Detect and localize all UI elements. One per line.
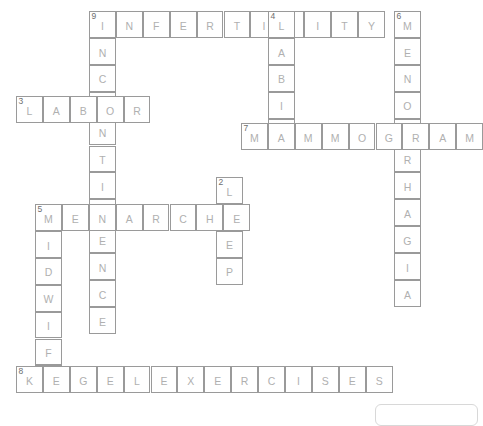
crossword-cell[interactable]: L [124, 366, 151, 393]
crossword-cell[interactable]: N [89, 253, 116, 280]
crossword-cell[interactable]: B [268, 65, 295, 92]
cell-letter: H [395, 173, 420, 198]
crossword-cell[interactable]: E [223, 204, 250, 231]
crossword-cell[interactable]: N [394, 65, 421, 92]
cell-letter: I [90, 173, 115, 198]
crossword-cell[interactable]: F [35, 339, 62, 366]
crossword-cell[interactable]: T [89, 146, 116, 173]
cell-letter: A [44, 97, 69, 122]
crossword-cell[interactable]: M [322, 123, 349, 150]
crossword-cell[interactable]: A [268, 123, 295, 150]
clue-number-3: 3 [19, 97, 24, 106]
cell-letter: X [178, 367, 203, 392]
crossword-cell[interactable]: A [429, 123, 456, 150]
crossword-cell[interactable]: A [394, 280, 421, 307]
crossword-cell[interactable]: S [312, 366, 339, 393]
crossword-cell[interactable]: G [376, 123, 403, 150]
crossword-cell[interactable]: O [394, 92, 421, 119]
crossword-cell[interactable]: S [366, 366, 393, 393]
crossword-cell[interactable]: O [349, 123, 376, 150]
crossword-cell[interactable]: X [177, 366, 204, 393]
cell-letter: E [63, 205, 88, 230]
cell-letter: I [269, 93, 294, 118]
cell-letter: R [395, 147, 420, 172]
crossword-cell[interactable]: E [43, 366, 70, 393]
cell-letter: C [171, 205, 196, 230]
crossword-cell[interactable]: L4 [268, 11, 295, 38]
cell-letter: E [44, 367, 69, 392]
crossword-cell[interactable]: A [268, 38, 295, 65]
clue-number-9: 9 [92, 12, 97, 21]
crossword-cell[interactable]: I9 [89, 11, 116, 38]
crossword-cell[interactable]: G [70, 366, 97, 393]
crossword-cell[interactable]: E [339, 366, 366, 393]
crossword-cell[interactable]: R [124, 96, 151, 123]
crossword-cell[interactable]: N [89, 204, 116, 231]
cell-letter: E [152, 367, 177, 392]
crossword-cell[interactable]: C [258, 366, 285, 393]
crossword-cell[interactable]: E [97, 366, 124, 393]
crossword-cell[interactable]: M [295, 123, 322, 150]
cell-letter: A [117, 205, 142, 230]
crossword-cell[interactable]: Y [358, 11, 385, 38]
cell-letter: B [71, 97, 96, 122]
crossword-cell[interactable]: R [143, 204, 170, 231]
cell-letter: N [90, 254, 115, 279]
crossword-cell[interactable]: I [285, 366, 312, 393]
crossword-cell[interactable]: M6 [394, 11, 421, 38]
crossword-cell[interactable]: T [224, 11, 251, 38]
cell-letter: C [90, 281, 115, 306]
crossword-cell[interactable]: K8 [16, 366, 43, 393]
crossword-cell[interactable]: E [394, 38, 421, 65]
cell-letter: D [36, 259, 61, 284]
cell-letter: I [305, 12, 330, 37]
crossword-cell[interactable]: M5 [35, 204, 62, 231]
crossword-cell[interactable]: M [456, 123, 483, 150]
crossword-cell[interactable]: R [402, 123, 429, 150]
crossword-cell[interactable]: I [394, 253, 421, 280]
crossword-cell[interactable]: N [116, 11, 143, 38]
crossword-cell[interactable]: A [394, 199, 421, 226]
cell-letter: E [224, 205, 249, 230]
cell-letter: E [205, 367, 230, 392]
crossword-cell[interactable]: M7 [241, 123, 268, 150]
crossword-cell[interactable]: I [35, 312, 62, 339]
crossword-cell[interactable]: H [394, 172, 421, 199]
crossword-cell[interactable]: I [35, 231, 62, 258]
cell-letter: R [232, 367, 257, 392]
crossword-cell[interactable]: I [268, 92, 295, 119]
crossword-cell[interactable]: P [216, 258, 243, 285]
crossword-cell[interactable]: E [216, 231, 243, 258]
crossword-cell[interactable]: I [304, 11, 331, 38]
crossword-cell[interactable]: R [231, 366, 258, 393]
cell-letter: N [90, 205, 115, 230]
crossword-cell[interactable]: N [89, 38, 116, 65]
crossword-cell[interactable]: W [35, 285, 62, 312]
crossword-cell[interactable]: C [170, 204, 197, 231]
crossword-cell[interactable]: A [116, 204, 143, 231]
cell-letter: E [98, 367, 123, 392]
crossword-cell[interactable]: E [204, 366, 231, 393]
crossword-cell[interactable]: O [97, 96, 124, 123]
crossword-cell[interactable]: C [89, 65, 116, 92]
crossword-cell[interactable]: D [35, 258, 62, 285]
cell-letter: E [217, 232, 242, 257]
crossword-cell[interactable]: H [196, 204, 223, 231]
crossword-cell[interactable]: E [62, 204, 89, 231]
crossword-cell[interactable]: C [89, 280, 116, 307]
cell-letter: F [36, 340, 61, 365]
crossword-cell[interactable]: F [143, 11, 170, 38]
crossword-cell[interactable]: E [89, 307, 116, 334]
crossword-cell[interactable]: B [70, 96, 97, 123]
crossword-cell[interactable]: E [151, 366, 178, 393]
crossword-cell[interactable]: E [170, 11, 197, 38]
crossword-cell[interactable]: R [197, 11, 224, 38]
cell-letter: E [90, 227, 115, 252]
crossword-cell[interactable]: L2 [216, 177, 243, 204]
crossword-cell[interactable]: G [394, 226, 421, 253]
crossword-cell[interactable]: I [89, 172, 116, 199]
crossword-cell[interactable]: L3 [16, 96, 43, 123]
crossword-cell[interactable]: A [43, 96, 70, 123]
crossword-cell[interactable]: T [331, 11, 358, 38]
